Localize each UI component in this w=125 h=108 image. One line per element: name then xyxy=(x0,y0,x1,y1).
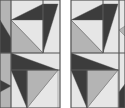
triangle-shape xyxy=(0,53,11,108)
pattern-panel-right xyxy=(71,0,125,108)
quilt-pattern-canvas xyxy=(0,0,125,108)
pattern-panel-left xyxy=(0,0,60,108)
